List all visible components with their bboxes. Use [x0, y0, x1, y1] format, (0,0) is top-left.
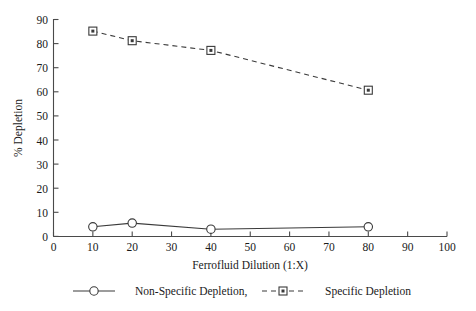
x-axis-tick-labels: 0 10 20 30 40 50 60 70 80 90 100 [51, 241, 456, 253]
series-specific-depletion-markers [89, 27, 372, 94]
y-tick-label: 30 [37, 159, 49, 171]
y-tick-label: 10 [37, 207, 49, 219]
legend-label-non-specific-depletion: Non-Specific Depletion, [135, 285, 248, 298]
x-tick-label: 30 [166, 241, 178, 253]
y-tick-label: 0 [42, 231, 48, 243]
series-specific-depletion [89, 27, 372, 94]
legend-label-specific-depletion: Specific Depletion [325, 285, 411, 298]
series-non-specific-depletion [89, 219, 373, 233]
y-tick-label: 70 [37, 62, 49, 74]
y-axis-ticks [54, 20, 59, 237]
legend-marker-square-inner-icon [282, 290, 285, 293]
y-tick-label: 80 [37, 38, 49, 50]
y-tick-label: 20 [37, 183, 49, 195]
y-axis-tick-labels: 90 80 70 60 50 40 30 20 10 0 [37, 14, 49, 243]
x-tick-label: 70 [323, 241, 335, 253]
x-tick-label: 40 [205, 241, 217, 253]
y-tick-label: 50 [37, 110, 49, 122]
x-tick-label: 80 [363, 241, 375, 253]
x-tick-label: 10 [87, 241, 99, 253]
legend-entry-non-specific-depletion[interactable]: Non-Specific Depletion, [73, 285, 248, 298]
x-tick-label: 100 [438, 241, 456, 253]
x-tick-label: 0 [51, 241, 57, 253]
series-non-specific-depletion-markers [89, 219, 373, 233]
y-tick-label: 40 [37, 135, 49, 147]
chart-figure: 90 80 70 60 50 40 30 20 10 0 0 [0, 0, 476, 311]
line-chart-svg: 90 80 70 60 50 40 30 20 10 0 0 [0, 0, 476, 311]
legend-marker-circle-icon [90, 287, 98, 295]
x-tick-label: 50 [245, 241, 257, 253]
y-tick-label: 90 [37, 14, 49, 26]
chart-legend: Non-Specific Depletion, Specific Depleti… [73, 285, 411, 298]
y-tick-label: 60 [37, 86, 49, 98]
x-tick-label: 60 [284, 241, 296, 253]
legend-entry-specific-depletion[interactable]: Specific Depletion [262, 285, 411, 298]
x-tick-label: 90 [402, 241, 414, 253]
x-tick-label: 20 [126, 241, 138, 253]
x-axis-ticks [54, 232, 448, 237]
x-axis-title: Ferrofluid Dilution (1:X) [192, 259, 308, 272]
y-axis-title: % Depletion [12, 99, 25, 157]
